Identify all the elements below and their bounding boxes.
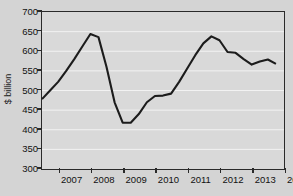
x-tick-label: 2012 (222, 174, 243, 185)
x-axis-tick-labels: 20072008200920102011201220132014 (41, 174, 285, 190)
x-tick-mark (91, 168, 93, 173)
x-tick-mark (123, 168, 125, 173)
x-tick-label: 2010 (158, 174, 179, 185)
x-tick-label: 2009 (126, 174, 147, 185)
x-tick-label: 2011 (190, 174, 210, 185)
x-tick-mark (252, 168, 254, 173)
x-tick-mark (59, 168, 61, 173)
x-tick-label: 2007 (61, 174, 82, 185)
x-tick-label: 2008 (93, 174, 114, 185)
x-tick-mark (155, 168, 157, 173)
x-tick-label: 2013 (255, 174, 276, 185)
plot-area (41, 11, 285, 170)
x-tick-mark (220, 168, 222, 173)
y-axis-label-text: $ billion (3, 74, 13, 105)
data-line-layer (42, 12, 284, 169)
x-tick-mark (285, 168, 287, 173)
x-tick-label: 2014 (287, 174, 293, 185)
data-line (42, 34, 276, 123)
x-tick-mark (188, 168, 190, 173)
chart-figure: $ billion 300350400450500550600650700 20… (0, 0, 293, 196)
